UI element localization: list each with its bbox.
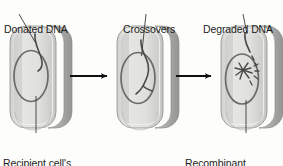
label-degraded-dna: Degraded DNA bbox=[203, 1, 273, 47]
label-recipient-line1: Recipient cell's bbox=[3, 158, 71, 166]
label-recombinant-chromosome: Recombinant chromosome bbox=[185, 135, 246, 166]
label-donated-dna: Donated DNA bbox=[4, 1, 68, 47]
label-recipient-chromosome: Recipient cell's chromosome bbox=[3, 135, 71, 166]
label-recombinant-line1: Recombinant bbox=[185, 158, 246, 166]
label-crossovers: Crossovers bbox=[123, 1, 175, 47]
label-donated-dna-text: Donated DNA bbox=[4, 24, 68, 36]
label-crossovers-text: Crossovers bbox=[123, 24, 175, 36]
label-degraded-dna-text: Degraded DNA bbox=[203, 24, 273, 36]
